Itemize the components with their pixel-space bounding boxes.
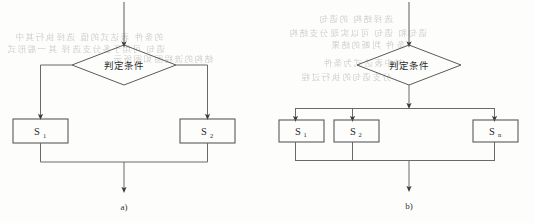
caption-b: b) (405, 201, 413, 211)
process-box-b-n (473, 120, 518, 142)
caption-a: a) (121, 202, 128, 212)
process-box-b-2 (334, 120, 379, 142)
process-sub-a-1: 1 (43, 132, 46, 139)
process-label-a-1: S (34, 126, 40, 137)
flowchart-svg: 判定条件 S 1 S 2 a) 判定条件 (0, 0, 535, 223)
decision-label-a: 判定条件 (104, 60, 144, 71)
diagram-a: 判定条件 S 1 S 2 a) (13, 2, 235, 212)
process-sub-b-2: 2 (358, 131, 361, 138)
process-label-b-2: S (350, 126, 356, 137)
branch-line-a-left (41, 65, 73, 117)
process-sub-a-2: 2 (210, 132, 213, 139)
decision-label-b: 判定条件 (389, 60, 429, 71)
figure-canvas: 的条件 表达式的值 选择执行其中语句 可用于多分支选择 其一般形式结构的流程图如… (0, 0, 535, 223)
process-box-b-1 (279, 120, 324, 142)
process-sub-b-1: 1 (303, 131, 306, 138)
merge-bus-a (41, 143, 208, 162)
process-label-a-2: S (201, 126, 207, 137)
process-label-b-n: S (489, 126, 495, 137)
process-box-a-1 (13, 119, 68, 143)
process-box-a-2 (180, 119, 235, 143)
process-label-b-1: S (295, 126, 301, 137)
diagram-b: 判定条件 S 1 S 2 S n (279, 2, 518, 211)
branch-line-a-right (176, 65, 208, 117)
process-sub-b-n: n (498, 131, 502, 138)
